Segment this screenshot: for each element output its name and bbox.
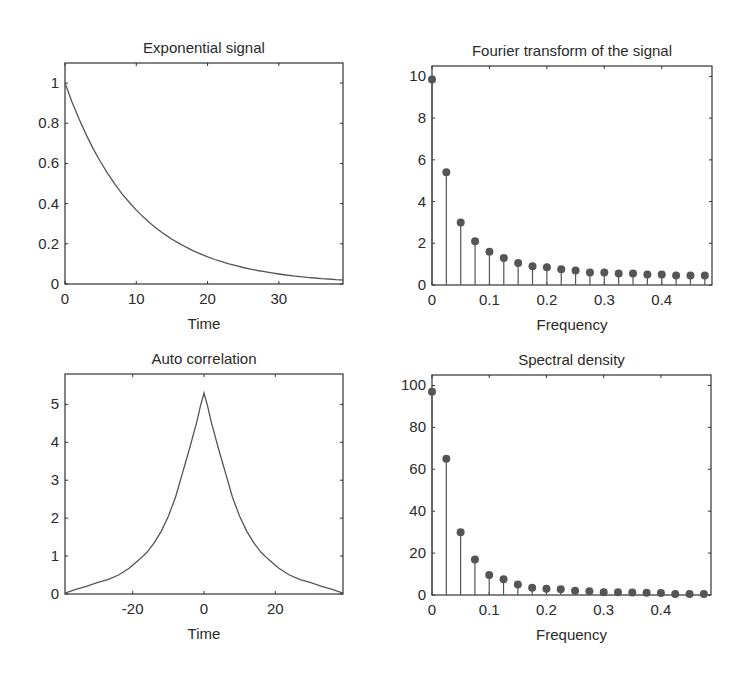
y-tick-label: 60	[409, 460, 426, 477]
axes-frame	[65, 63, 343, 284]
panel-auto-correlation: Auto correlationTime-20020012345	[51, 350, 343, 642]
stem-marker	[643, 271, 651, 279]
x-tick-label: 0.3	[594, 291, 615, 308]
y-tick-label: 4	[51, 433, 59, 450]
y-tick-label: 0	[418, 586, 426, 603]
stem-marker	[600, 588, 608, 596]
stem-marker	[485, 248, 493, 256]
y-tick-label: 3	[51, 471, 59, 488]
stem-marker	[586, 268, 594, 276]
y-tick-label: 0.4	[38, 195, 59, 212]
y-tick-label: 20	[409, 544, 426, 561]
stem-marker	[571, 587, 579, 595]
y-tick-label: 1	[51, 74, 59, 91]
y-tick-label: 0.6	[38, 154, 59, 171]
stem-marker	[585, 587, 593, 595]
stem-marker	[628, 588, 636, 596]
y-tick-label: 2	[418, 234, 426, 251]
x-tick-label: 0.2	[536, 291, 557, 308]
data-line	[65, 393, 343, 593]
panel-fourier-transform: Fourier transform of the signalFrequency…	[409, 42, 712, 333]
stem-marker	[471, 555, 479, 563]
x-axis-label: Frequency	[537, 316, 608, 333]
x-tick-label: 0.2	[536, 601, 557, 618]
x-axis-label: Frequency	[536, 626, 607, 643]
x-axis-label: Time	[188, 625, 221, 642]
stem-marker	[700, 590, 708, 598]
chart-title: Spectral density	[518, 351, 625, 368]
x-axis-label: Time	[188, 315, 221, 332]
x-tick-label: 0.4	[651, 291, 672, 308]
y-tick-label: 5	[51, 395, 59, 412]
x-tick-label: 0.1	[479, 291, 500, 308]
stem-marker	[572, 266, 580, 274]
stem-marker	[557, 585, 565, 593]
stem-marker	[485, 571, 493, 579]
y-tick-label: 100	[401, 376, 426, 393]
stem-marker	[428, 76, 436, 84]
stem-marker	[643, 589, 651, 597]
stem-marker	[701, 272, 709, 280]
stem-marker	[686, 590, 694, 598]
stem-marker	[528, 584, 536, 592]
stem-marker	[557, 265, 565, 273]
y-tick-label: 0.8	[38, 114, 59, 131]
stem-marker	[600, 268, 608, 276]
stem-marker	[514, 259, 522, 267]
panel-spectral-density: Spectral densityFrequency00.10.20.30.402…	[401, 351, 711, 643]
stem-marker	[529, 262, 537, 270]
stem-marker	[543, 263, 551, 271]
y-tick-label: 8	[418, 109, 426, 126]
x-tick-label: 0	[200, 600, 208, 617]
x-tick-label: 10	[128, 290, 145, 307]
stem-marker	[442, 455, 450, 463]
data-line	[65, 83, 343, 280]
x-tick-label: 0.4	[650, 601, 671, 618]
y-tick-label: 1	[51, 547, 59, 564]
x-tick-label: 30	[271, 290, 288, 307]
stem-marker	[614, 588, 622, 596]
x-tick-label: 0	[428, 601, 436, 618]
stem-marker	[514, 581, 522, 589]
stem-marker	[629, 270, 637, 278]
x-tick-label: -20	[122, 600, 144, 617]
stem-marker	[500, 254, 508, 262]
y-tick-label: 10	[409, 67, 426, 84]
y-tick-label: 80	[409, 418, 426, 435]
y-tick-label: 40	[409, 502, 426, 519]
x-tick-label: 0	[428, 291, 436, 308]
stem-marker	[457, 528, 465, 536]
stem-marker	[686, 272, 694, 280]
stem-marker	[442, 168, 450, 176]
stem-marker	[671, 590, 679, 598]
x-tick-label: 20	[267, 600, 284, 617]
axes-frame	[432, 66, 712, 285]
y-tick-label: 0	[51, 275, 59, 292]
chart-title: Fourier transform of the signal	[472, 42, 672, 59]
stem-marker	[428, 388, 436, 396]
stem-marker	[542, 585, 550, 593]
chart-title: Auto correlation	[151, 350, 256, 367]
y-tick-label: 0	[51, 585, 59, 602]
panel-exponential-signal: Exponential signalTime010203000.20.40.60…	[38, 39, 343, 332]
stem-marker	[672, 272, 680, 280]
x-tick-label: 20	[199, 290, 216, 307]
stem-marker	[657, 589, 665, 597]
x-tick-label: 0.3	[593, 601, 614, 618]
x-tick-label: 0	[61, 290, 69, 307]
y-tick-label: 6	[418, 151, 426, 168]
stem-marker	[457, 218, 465, 226]
chart-title: Exponential signal	[143, 39, 265, 56]
y-tick-label: 0.2	[38, 235, 59, 252]
x-tick-label: 0.1	[479, 601, 500, 618]
stem-marker	[658, 271, 666, 279]
stem-marker	[615, 270, 623, 278]
y-tick-label: 2	[51, 509, 59, 526]
figure: Exponential signalTime010203000.20.40.60…	[0, 0, 747, 676]
stem-marker	[471, 237, 479, 245]
stem-marker	[500, 575, 508, 583]
y-tick-label: 0	[418, 276, 426, 293]
y-tick-label: 4	[418, 193, 426, 210]
axes-frame	[65, 374, 343, 594]
